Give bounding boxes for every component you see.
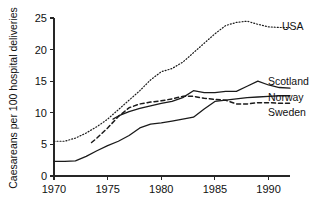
x-tick-label: 1990 <box>256 183 280 195</box>
series-label-norway: Norway <box>268 91 304 103</box>
y-tick-group: 0510152025 <box>35 12 54 182</box>
x-tick-label: 1970 <box>42 183 66 195</box>
line-chart: Caesareans per 100 hospital deliveries 0… <box>0 0 328 207</box>
series-group <box>54 21 290 161</box>
series-line-norway <box>54 96 290 162</box>
y-tick-label: 10 <box>35 107 47 119</box>
series-label-scotland: Scotland <box>268 75 309 87</box>
x-tick-label: 1975 <box>95 183 119 195</box>
series-label-sweden: Sweden <box>268 106 306 118</box>
series-line-usa <box>54 21 290 141</box>
series-line-sweden <box>92 96 290 142</box>
y-tick-label: 0 <box>41 170 47 182</box>
series-line-scotland <box>113 81 290 119</box>
y-tick-label: 25 <box>35 12 47 24</box>
x-tick-label: 1985 <box>203 183 227 195</box>
y-tick-label: 20 <box>35 44 47 56</box>
y-axis-title: Caesareans per 100 hospital deliveries <box>7 7 19 189</box>
series-label-usa: USA <box>282 20 304 32</box>
y-axis-title-group: Caesareans per 100 hospital deliveries <box>7 7 19 189</box>
y-tick-label: 5 <box>41 138 47 150</box>
x-tick-group: 19701975198019851990 <box>42 176 281 195</box>
chart-container: Caesareans per 100 hospital deliveries 0… <box>0 0 328 207</box>
y-tick-label: 15 <box>35 75 47 87</box>
x-tick-label: 1980 <box>149 183 173 195</box>
